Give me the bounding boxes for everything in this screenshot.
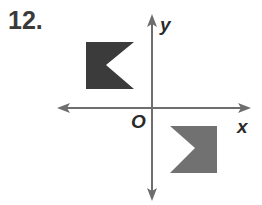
x-axis-label: x xyxy=(236,116,249,137)
x-axis xyxy=(57,103,251,113)
origin-label: O xyxy=(131,111,146,132)
preimage-figure xyxy=(86,42,134,89)
image-figure xyxy=(170,126,217,173)
y-axis-label: y xyxy=(159,14,172,35)
coordinate-plane: y x O xyxy=(0,0,262,205)
